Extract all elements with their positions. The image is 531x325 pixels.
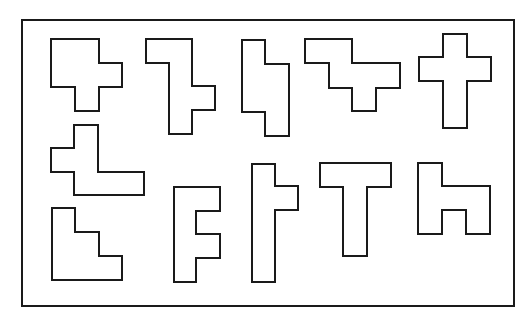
shape-4 — [305, 39, 400, 111]
shape-8-f — [174, 187, 220, 282]
shape-5-cross — [419, 34, 491, 128]
shapes-figure — [0, 0, 531, 325]
shape-6 — [51, 125, 144, 195]
shape-10-t — [320, 163, 391, 256]
shape-2 — [146, 39, 215, 134]
shape-1 — [51, 39, 122, 111]
shape-9 — [252, 164, 298, 282]
shape-11 — [418, 163, 490, 234]
shape-7-staircase — [52, 208, 122, 280]
shape-3 — [242, 40, 289, 136]
